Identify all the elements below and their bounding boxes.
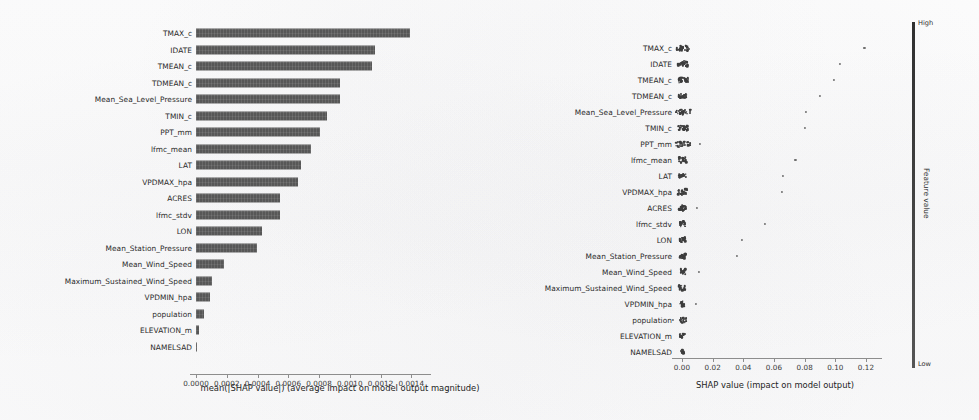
beeswarm-feature-label: lfmc_stdv [636,220,672,229]
beeswarm-point [679,286,682,289]
bar-mark [196,161,301,170]
bar-feature-label: LON [177,227,192,236]
beeswarm-point [678,190,680,192]
beeswarm-point [683,288,685,290]
bar-x-tick-label: 0.0010 [337,379,363,388]
beeswarm-point [682,126,684,128]
beeswarm-point [682,305,684,307]
beeswarm-point [684,306,686,308]
beeswarm-point [689,144,691,146]
beeswarm-point [685,94,687,96]
bar-feature-label: TMAX_c [163,29,192,38]
bar-feature-label: LAT [179,161,192,170]
beeswarm-point [679,127,681,129]
beeswarm-feature-label: ACRES [647,204,672,213]
beeswarm-point [684,321,686,323]
beeswarm-point [689,112,691,114]
shap-beeswarm-plot: SHAP value (impact on model output) High… [490,0,979,420]
bar-x-tick-label: 0.0004 [245,379,271,388]
beeswarm-feature-label: IDATE [650,60,672,69]
beeswarm-point [682,110,684,112]
beeswarm-outlier-point [839,63,841,65]
bar-mark [196,260,224,269]
bar-feature-label: VPDMIN_hpa [145,293,192,302]
bar-x-tick [196,375,197,378]
bar-feature-label: lfmc_stdv [156,210,192,219]
beeswarm-point [683,159,685,161]
bar-mark [196,342,197,351]
beeswarm-feature-label: ELEVATION_m [620,332,672,341]
bar-feature-label: Mean_Station_Pressure [106,243,192,252]
beeswarm-point [684,97,686,99]
beeswarm-x-axis-line [672,358,882,359]
beeswarm-feature-label: TMAX_c [643,44,672,53]
bar-x-tick-label: 0.0006 [275,379,301,388]
beeswarm-feature-label: PPT_mm [640,140,672,149]
beeswarm-x-tick [743,359,744,362]
beeswarm-feature-label: Mean_Sea_Level_Pressure [575,108,672,117]
beeswarm-point [678,129,680,131]
bar-x-tick [258,375,259,378]
bar-x-tick-label: 0.0000 [183,379,209,388]
beeswarm-point [682,302,684,304]
beeswarm-point [684,226,686,228]
bar-mark [196,210,280,219]
colorbar-low-label: Low [918,360,931,368]
beeswarm-point [687,129,689,131]
beeswarm-x-tick-label: 0.04 [735,363,751,372]
bar-mark [196,29,410,38]
shap-bar-plot: mean(|SHAP value|) (average impact on mo… [0,0,490,420]
beeswarm-point [682,189,684,191]
beeswarm-x-tick [713,359,714,362]
beeswarm-point [677,64,679,66]
beeswarm-point [680,241,682,243]
beeswarm-x-tick-label: 0.00 [674,363,690,372]
beeswarm-outlier-point [764,223,766,225]
bar-x-tick-label: 0.0014 [398,379,424,388]
bar-mark [196,78,340,87]
bar-feature-label: population [152,309,192,318]
beeswarm-outlier-point [805,111,807,113]
beeswarm-point [685,173,687,175]
beeswarm-feature-label: Maximum_Sustained_Wind_Speed [545,284,672,293]
beeswarm-point [685,111,687,113]
beeswarm-point [681,238,683,240]
bar-feature-label: TMEAN_c [158,62,192,71]
bar-feature-label: IDATE [170,45,192,54]
beeswarm-point [681,65,683,67]
bar-feature-label: PPT_mm [160,128,192,137]
bar-mark [196,95,340,104]
beeswarm-point [686,144,689,147]
beeswarm-point [683,351,685,353]
bar-mark [196,62,372,71]
beeswarm-x-tick-label: 0.06 [766,363,782,372]
beeswarm-point [684,269,686,271]
beeswarm-outlier-point [695,303,697,305]
bar-mark [196,111,327,120]
beeswarm-point [684,223,686,225]
beeswarm-feature-label: population [632,316,672,325]
bar-x-tick-label: 0.0008 [306,379,332,388]
beeswarm-feature-label: lfmc_mean [631,156,672,165]
beeswarm-point [680,81,682,83]
beeswarm-feature-label: LAT [659,172,672,181]
beeswarm-x-tick [774,359,775,362]
bar-feature-label: TMIN_c [165,111,192,120]
beeswarm-point [680,303,682,305]
beeswarm-point [683,335,685,337]
beeswarm-point [678,285,680,287]
shap-figure: mean(|SHAP value|) (average impact on mo… [0,0,979,420]
beeswarm-outlier-point [794,159,796,161]
bar-feature-label: ELEVATION_m [140,326,192,335]
beeswarm-outlier-point [672,319,674,321]
beeswarm-x-tick [805,359,806,362]
beeswarm-point [681,161,683,163]
beeswarm-outlier-point [833,79,835,81]
beeswarm-feature-label: TDMEAN_c [632,92,672,101]
bar-feature-label: Mean_Wind_Speed [122,260,192,269]
beeswarm-feature-label: VPDMAX_hpa [622,188,672,197]
beeswarm-point [682,145,684,147]
beeswarm-point [680,193,682,195]
beeswarm-feature-label: Mean_Station_Pressure [586,252,672,261]
bar-mark [196,177,298,186]
